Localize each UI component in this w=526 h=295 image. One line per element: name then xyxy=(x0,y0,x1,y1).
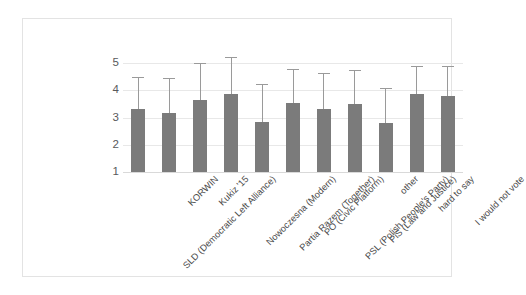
bar-group xyxy=(123,63,153,172)
x-axis-label: Nowoczesna (Modern) xyxy=(265,174,338,247)
error-bar-line xyxy=(231,58,232,95)
bar-group xyxy=(185,63,215,172)
bar xyxy=(348,104,362,172)
error-bar-cap xyxy=(194,63,206,64)
bar-group xyxy=(247,63,277,172)
error-bar-cap xyxy=(380,88,392,89)
error-bar-line xyxy=(354,71,355,104)
x-axis-category-labels: SLD (Democratic Left Alliance)KORWINKuki… xyxy=(123,174,463,294)
chart-frame: 12345 SLD (Democratic Left Alliance)KORW… xyxy=(22,18,452,277)
error-bar-cap xyxy=(163,78,175,79)
bar-group xyxy=(340,63,370,172)
bar-group xyxy=(402,63,432,172)
bar xyxy=(410,94,424,172)
bar xyxy=(255,122,269,172)
error-bar-cap xyxy=(132,77,144,78)
error-bar-line xyxy=(323,74,324,109)
bar xyxy=(162,113,176,172)
bar-group xyxy=(371,63,401,172)
error-bar-line xyxy=(447,67,448,96)
bar-group xyxy=(433,63,463,172)
bar xyxy=(224,94,238,172)
bar xyxy=(441,96,455,172)
error-bar-cap xyxy=(349,70,361,71)
error-bar-line xyxy=(169,79,170,113)
error-bar-line xyxy=(416,67,417,94)
error-bar-line xyxy=(138,78,139,109)
y-axis-tick-4: 4 xyxy=(105,85,119,97)
error-bar-cap xyxy=(411,66,423,67)
y-axis-tick-5: 5 xyxy=(105,57,119,69)
bar xyxy=(317,109,331,172)
error-bar-line xyxy=(200,64,201,99)
bar xyxy=(286,103,300,172)
bar xyxy=(379,123,393,172)
x-axis-label: KORWIN xyxy=(187,174,221,208)
error-bar-line xyxy=(293,70,294,103)
gridline-1 xyxy=(123,172,463,173)
error-bar-cap xyxy=(442,66,454,67)
bar-group xyxy=(216,63,246,172)
y-axis: 12345 xyxy=(105,63,121,172)
bar-group xyxy=(278,63,308,172)
bar xyxy=(193,100,207,172)
x-axis-label: I would not vote xyxy=(473,174,526,227)
error-bar-cap xyxy=(225,57,237,58)
error-bar-cap xyxy=(287,69,299,70)
error-bar-cap xyxy=(256,84,268,85)
error-bar-line xyxy=(385,89,386,123)
y-axis-tick-2: 2 xyxy=(105,139,119,151)
bar-group xyxy=(309,63,339,172)
y-axis-tick-1: 1 xyxy=(105,166,119,178)
y-axis-tick-3: 3 xyxy=(105,112,119,124)
x-axis-label: other xyxy=(398,174,420,196)
bar-group xyxy=(154,63,184,172)
plot-area xyxy=(123,63,463,172)
error-bar-line xyxy=(262,85,263,122)
error-bar-cap xyxy=(318,73,330,74)
bar xyxy=(131,109,145,172)
